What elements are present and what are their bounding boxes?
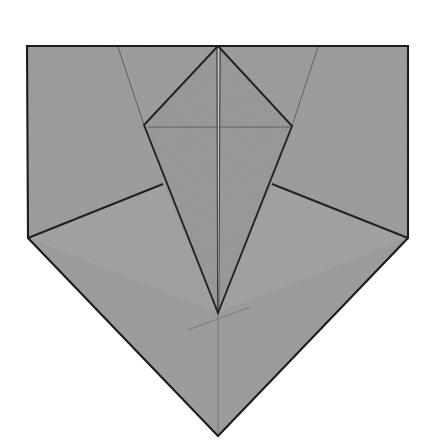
origami-figure-root: Origami fold diagram Shaded paper model:… <box>0 0 436 448</box>
center-ridge-left-line <box>217 47 218 312</box>
origami-diagram <box>0 0 436 448</box>
